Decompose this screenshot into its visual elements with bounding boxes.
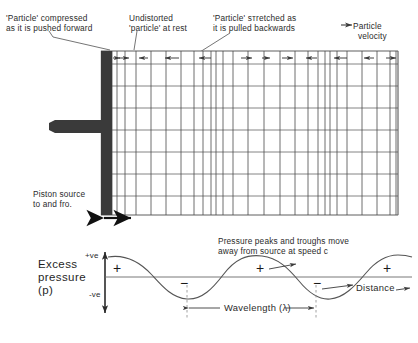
pressure-marker-compression: + bbox=[256, 261, 264, 275]
piston-rod-end bbox=[49, 120, 55, 133]
particle-grid bbox=[101, 51, 398, 215]
piston-rod bbox=[55, 120, 102, 133]
piston-face bbox=[101, 51, 112, 215]
legend-particle-velocity: Particle velocity bbox=[353, 22, 387, 41]
pressure-marker-compression: + bbox=[383, 261, 391, 275]
wavelength-label: Wavelength (λ) bbox=[224, 303, 291, 313]
annotation-compressed: 'Particle' compressed as it is pushed fo… bbox=[6, 14, 92, 33]
annotation-stretched: 'Particle' sтretched as it is pulled bac… bbox=[213, 14, 296, 33]
pressure-marker-rarefaction: − bbox=[180, 276, 188, 290]
annotation-pressure-peaks: Pressure peaks and troughs move away fro… bbox=[218, 237, 349, 256]
annotation-undistorted: Undistorted 'particle' at rest bbox=[129, 14, 187, 33]
axis-tick-positive: +ve bbox=[85, 251, 99, 261]
distance-direction-arrow bbox=[396, 288, 410, 290]
pressure-marker-compression: + bbox=[113, 261, 121, 275]
diagram-canvas: 'Particle' compressed as it is pushed fo… bbox=[0, 0, 418, 343]
axis-label-excess-pressure: Excess pressure (p) bbox=[38, 258, 86, 298]
annotation-piston-source: Piston source to and fro. bbox=[33, 190, 85, 209]
pressure-marker-rarefaction: − bbox=[313, 276, 321, 290]
axis-tick-negative: -ve bbox=[89, 290, 101, 300]
axis-label-distance: Distance bbox=[356, 283, 395, 293]
wave-travel-arrows bbox=[269, 264, 353, 289]
